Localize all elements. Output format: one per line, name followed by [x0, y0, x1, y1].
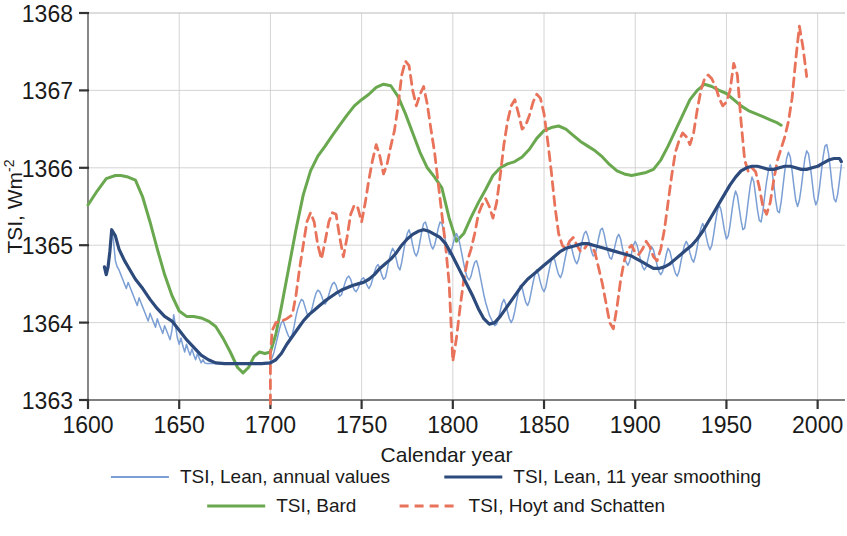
x-axis-title: Calendar year: [381, 443, 513, 466]
x-tick-label: 1600: [62, 412, 113, 438]
x-tick-label: 1750: [336, 412, 387, 438]
x-tick-label: 1700: [245, 412, 296, 438]
x-tick-label: 1900: [610, 412, 661, 438]
y-axis-title-exponent: -2: [1, 159, 17, 172]
x-tick-label: 1650: [154, 412, 205, 438]
y-tick-label: 1366: [22, 156, 73, 182]
legend-label: TSI, Lean, annual values: [180, 466, 390, 487]
y-tick-label: 1368: [22, 1, 73, 27]
x-axis-tick-labels: 160016501700175018001850190019502000: [62, 412, 843, 438]
x-tick-label: 1800: [427, 412, 478, 438]
legend-label: TSI, Lean, 11 year smoothing: [513, 466, 761, 487]
y-tick-label: 1365: [22, 233, 73, 259]
legend-label: TSI, Bard: [276, 495, 356, 516]
y-tick-label: 1364: [22, 311, 73, 337]
x-tick-label: 2000: [792, 412, 843, 438]
y-axis-title-text: TSI, Wm-2: [1, 159, 26, 253]
y-tick-label: 1367: [22, 78, 73, 104]
tsi-chart-figure: 136313641365136613671368 160016501700175…: [0, 0, 847, 536]
x-tick-label: 1950: [701, 412, 752, 438]
legend-label: TSI, Hoyt and Schatten: [469, 495, 665, 516]
y-tick-label: 1363: [22, 388, 73, 414]
x-tick-label: 1850: [518, 412, 569, 438]
y-axis-title: TSI, Wm-2: [1, 159, 26, 253]
